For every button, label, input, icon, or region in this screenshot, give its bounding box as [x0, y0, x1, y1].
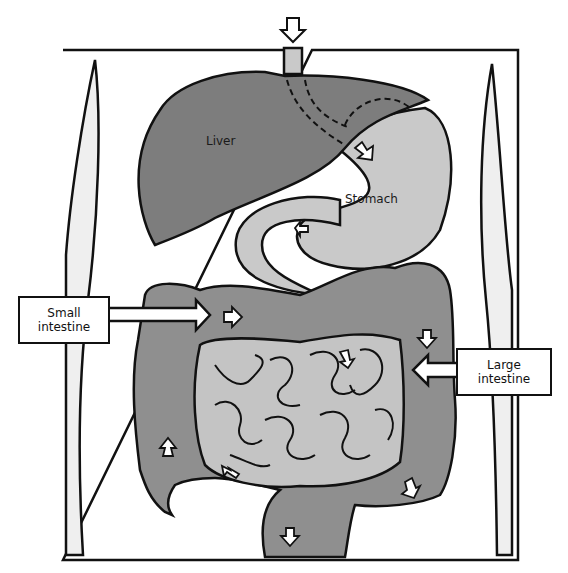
right-muscle	[481, 64, 512, 555]
large-intestine-label-line1: Large	[478, 358, 530, 372]
small-intestine-label-line1: Small	[38, 306, 90, 320]
large-intestine-label-line2: intestine	[478, 372, 530, 386]
digestive-system-diagram: Liver Stomach	[0, 0, 568, 573]
liver-label: Liver	[206, 134, 236, 148]
food-entry-arrow-icon	[281, 18, 305, 42]
small-intestine-callout: Small intestine	[18, 296, 110, 344]
small-intestine-label-line2: intestine	[38, 320, 90, 334]
esophagus	[284, 48, 302, 74]
large-intestine-callout: Large intestine	[456, 348, 552, 396]
small-intestine	[195, 334, 404, 487]
stomach-label: Stomach	[345, 192, 398, 206]
